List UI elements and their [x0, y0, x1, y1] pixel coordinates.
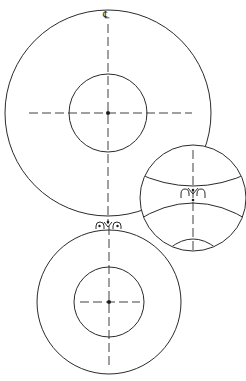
nozzle-assembly [96, 221, 121, 229]
nozzle-center-point [107, 221, 110, 224]
lower-roll [37, 230, 181, 374]
roll-diagram [0, 0, 246, 381]
inset-nozzle-point [192, 189, 195, 192]
centerline-label: ℄ [103, 10, 109, 20]
nozzle-right-hole [116, 225, 118, 227]
detail-inset [135, 145, 246, 251]
upper-center-point [106, 111, 110, 115]
inset-lower-point [192, 199, 195, 202]
lower-center-point [107, 300, 111, 304]
nozzle-left-hole [98, 225, 100, 227]
